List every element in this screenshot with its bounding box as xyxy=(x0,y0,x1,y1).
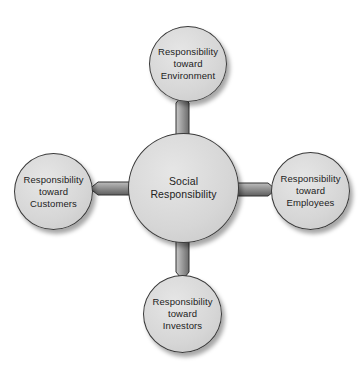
arrow-to-environment xyxy=(176,96,189,138)
node-environment-label: Responsibility toward Environment xyxy=(158,46,218,82)
node-customers: Responsibility toward Customers xyxy=(14,153,93,230)
arrow-to-customers xyxy=(90,182,132,195)
arrow-to-investors xyxy=(176,240,189,280)
node-customers-label: Responsibility toward Customers xyxy=(23,174,83,210)
node-investors: Responsibility toward Investors xyxy=(143,275,222,353)
center-node-label: Social Responsibility xyxy=(150,175,216,201)
node-environment: Responsibility toward Environment xyxy=(149,26,227,102)
arrow-to-employees xyxy=(236,183,276,196)
node-investors-label: Responsibility toward Investors xyxy=(152,296,212,332)
node-employees: Responsibility toward Employees xyxy=(271,152,350,230)
social-responsibility-diagram: Social Responsibility Responsibility tow… xyxy=(0,0,363,370)
node-employees-label: Responsibility toward Employees xyxy=(280,173,340,209)
center-node-social-responsibility: Social Responsibility xyxy=(128,133,239,243)
